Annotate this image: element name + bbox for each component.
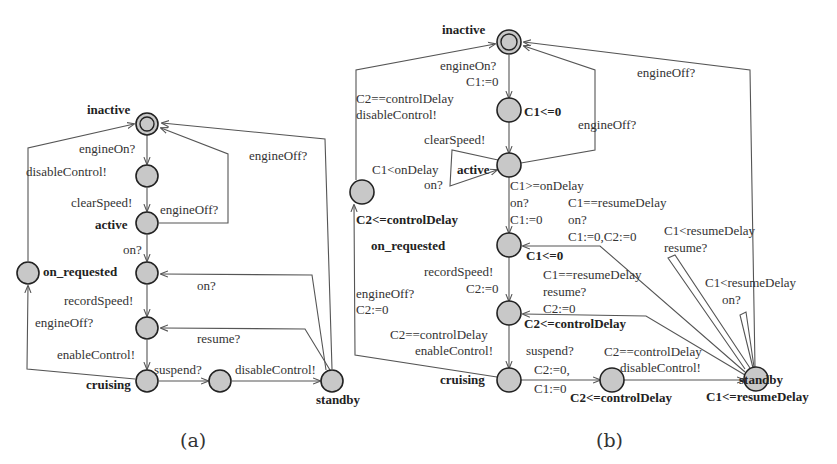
label-b-enable-guard: C2==controlDelay [390, 327, 488, 342]
label-b-enable-sync: enableControl! [415, 343, 493, 358]
diagram-a: inactive active on_requested cruising st… [17, 102, 361, 451]
location-on[interactable] [136, 262, 158, 284]
caption-b: (b) [596, 429, 623, 451]
label-resume: resume? [197, 331, 241, 346]
label-b-engineon-reset: C1:=0 [466, 74, 499, 89]
location-b-engine-on[interactable] [497, 98, 521, 122]
location-b-disable-wait[interactable] [350, 180, 374, 204]
label-b-left-sync: disableControl! [356, 107, 437, 122]
label-b-resume-sync: resume? [543, 284, 587, 299]
label-b-on-guard: C1>=onDelay [510, 178, 584, 193]
label-b-loop-guard: C1<onDelay [372, 162, 439, 177]
label-engineoff-active: engineOff? [160, 202, 218, 217]
location-name-b-standby: standby [739, 372, 784, 387]
label-disablecontrol-left: disableControl! [26, 164, 107, 179]
label-b-resume-reset: C2:=0 [543, 301, 576, 316]
invariant-b-suspended: C2<=controlDelay [570, 390, 672, 405]
label-b-clearspeed: clearSpeed! [424, 132, 485, 147]
caption-a: (a) [180, 429, 206, 451]
label-b-loop-resume-guard: C1<resumeDelay [664, 223, 756, 238]
location-name-b-on-requested: on_requested [371, 238, 446, 253]
location-name-inactive: inactive [87, 102, 131, 117]
label-b-loop-on-guard: C1<resumeDelay [705, 275, 797, 290]
label-b-engineoff-active: engineOff? [578, 117, 636, 132]
location-b-on-requested[interactable] [497, 233, 521, 257]
label-enablecontrol: enableControl! [57, 347, 135, 362]
edge-on-standby [161, 274, 326, 370]
label-b-engineoff-left: engineOff? [356, 286, 414, 301]
location-name-on-requested: on_requested [43, 264, 118, 279]
location-standby[interactable] [321, 370, 343, 392]
label-b-disable-sync: disableControl! [620, 360, 701, 375]
label-b-suspend-reset2: C1:=0 [534, 381, 567, 396]
invariant-b-c1-zero: C1<=0 [524, 104, 561, 119]
location-record[interactable] [136, 317, 158, 339]
label-b-on-sync: on? [510, 195, 529, 210]
edge-b-loop-on [740, 312, 754, 368]
invariant-b-record: C2<=controlDelay [524, 316, 626, 331]
label-b-recordspeed-reset: C2:=0 [466, 281, 499, 296]
label-suspend: suspend? [154, 362, 202, 377]
location-name-b-inactive: inactive [442, 22, 486, 37]
label-b-engineoff-left-reset: C2:=0 [356, 302, 389, 317]
location-active[interactable] [136, 212, 158, 234]
location-name-b-active: active [457, 162, 490, 177]
label-b-loop-sync: on? [424, 177, 443, 192]
location-suspended[interactable] [209, 370, 231, 392]
label-b-left-guard: C2==controlDelay [356, 91, 454, 106]
label-b-suspend: suspend? [526, 343, 574, 358]
invariant-b-standby: C1<=resumeDelay [706, 389, 809, 404]
label-b-resume-guard: C1==resumeDelay [543, 267, 642, 282]
location-on-requested[interactable] [17, 262, 39, 284]
label-b-on-reset: C1:=0 [510, 212, 543, 227]
label-b-standby-on-reset: C1:=0,C2:=0 [568, 229, 636, 244]
label-b-loop-resume-sync: resume? [664, 240, 708, 255]
location-name-active: active [95, 217, 128, 232]
label-engineon: engineOn? [79, 141, 136, 156]
label-clearspeed: clearSpeed! [71, 195, 132, 210]
label-disablecontrol-bottom: disableControl! [235, 362, 316, 377]
label-b-loop-on-sync: on? [722, 292, 741, 307]
label-b-disable-guard: C2==controlDelay [604, 344, 702, 359]
timed-automata-figure: inactive active on_requested cruising st… [0, 0, 837, 464]
label-recordspeed: recordSpeed! [64, 293, 133, 308]
invariant-b-left: C2<=controlDelay [356, 212, 458, 227]
label-engineoff-left: engineOff? [35, 315, 93, 330]
label-engineoff-top: engineOff? [249, 148, 307, 163]
location-name-b-cruising: cruising [440, 372, 485, 387]
label-b-engineon: engineOn? [440, 58, 497, 73]
label-b-suspend-reset1: C2:=0, [534, 362, 570, 377]
invariant-b-on-requested: C1<=0 [526, 248, 563, 263]
diagram-b: inactive C1<=0 active on_requested C1<=0… [350, 22, 809, 451]
label-b-recordspeed: recordSpeed! [424, 264, 493, 279]
location-b-record[interactable] [497, 301, 521, 325]
label-on: on? [123, 242, 142, 257]
location-b-cruising[interactable] [497, 368, 521, 392]
location-name-cruising: cruising [86, 377, 131, 392]
label-b-standby-on-sync: on? [568, 212, 587, 227]
location-b-active[interactable] [497, 153, 521, 177]
location-engine-on[interactable] [136, 165, 158, 187]
label-b-standby-on-guard: C1==resumeDelay [568, 195, 667, 210]
location-name-standby: standby [316, 392, 361, 407]
label-b-engineoff-top: engineOff? [637, 65, 695, 80]
label-on-standby: on? [197, 278, 216, 293]
